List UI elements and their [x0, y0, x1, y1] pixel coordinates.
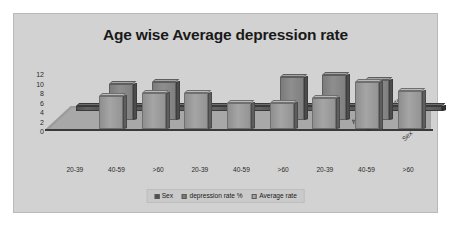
legend-swatch-icon [182, 194, 187, 199]
bar[interactable] [184, 93, 208, 129]
bar-side-face [442, 105, 446, 111]
bar-side-face [208, 92, 212, 129]
bar-front-face [227, 103, 251, 129]
x-axis-tick: 20-39 [66, 166, 83, 174]
legend-label: Average rate [259, 192, 297, 200]
chart-container: Age wise Average depression rate 1210864… [13, 13, 438, 213]
x-axis-tick: 20-39 [191, 166, 208, 174]
bar-side-face [389, 79, 393, 120]
bar-front-face [270, 103, 294, 129]
chart-title: Age wise Average depression rate [14, 26, 437, 44]
x-axis-tick: 40-59 [108, 166, 125, 174]
bar-side-face [133, 83, 137, 120]
chart-legend[interactable]: Sexdepression rate %Average rate [146, 189, 305, 203]
bar-group [14, 52, 439, 162]
bar-side-face [304, 76, 308, 120]
bar-front-face [76, 106, 100, 111]
legend-swatch-icon [252, 194, 257, 199]
bar[interactable] [142, 93, 166, 129]
legend-label: depression rate % [190, 192, 243, 200]
bar[interactable] [355, 82, 379, 130]
bar-front-face [142, 93, 166, 129]
bar[interactable] [76, 106, 100, 111]
x-axis-tick: 40-59 [233, 166, 250, 174]
x-axis-labels: 20-3940-59>6020-3940-59>6020-3940-59>60 [14, 166, 439, 178]
bar-front-face [355, 82, 379, 130]
legend-item[interactable]: Average rate [252, 192, 297, 200]
x-axis-tick: 20-39 [316, 166, 333, 174]
bar-side-face [294, 102, 298, 129]
x-axis-tick: >60 [403, 166, 414, 174]
x-axis-tick: 40-59 [358, 166, 375, 174]
bar[interactable] [398, 91, 422, 129]
legend-label: Sex [162, 192, 173, 200]
bar-front-face [184, 93, 208, 129]
legend-item[interactable]: depression rate % [182, 192, 243, 200]
bar-side-face [251, 102, 255, 129]
bar-side-face [336, 97, 340, 129]
bar-side-face [379, 81, 383, 129]
legend-swatch-icon [154, 194, 159, 199]
bar[interactable] [99, 96, 123, 129]
bar-side-face [166, 92, 170, 129]
bar-side-face [346, 74, 350, 120]
bar[interactable] [227, 103, 251, 129]
legend-item[interactable]: Sex [154, 192, 173, 200]
bar[interactable] [270, 103, 294, 129]
bar-front-face [398, 91, 422, 129]
bar-front-face [312, 98, 336, 129]
bar-side-face [123, 95, 127, 129]
bar-front-face [99, 96, 123, 129]
x-axis-tick: >60 [278, 166, 289, 174]
plot-area: 121086420 Average rate depression rate %… [14, 52, 439, 162]
bar-side-face [422, 90, 426, 129]
bar[interactable] [312, 98, 336, 129]
x-axis-tick: >60 [153, 166, 164, 174]
bar-side-face [176, 81, 180, 120]
